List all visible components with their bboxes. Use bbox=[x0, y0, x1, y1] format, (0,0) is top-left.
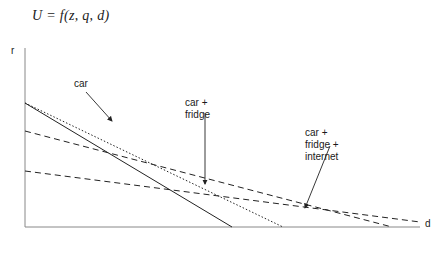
budget-line-0 bbox=[25, 103, 232, 227]
plot-svg bbox=[0, 0, 441, 259]
budget-line-3 bbox=[25, 171, 420, 222]
annotation-arrow-2 bbox=[305, 146, 330, 208]
figure-canvas: U = f(z, q, d) r d car car + fridge car … bbox=[0, 0, 441, 259]
annotation-arrow-0 bbox=[86, 92, 112, 121]
